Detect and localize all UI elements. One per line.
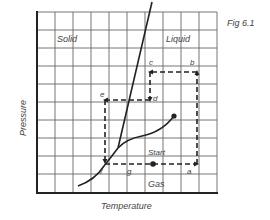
start-point: [150, 161, 156, 167]
point-label-c: c: [149, 58, 153, 67]
point-label-start: Start: [148, 148, 166, 157]
point-label-a: a: [187, 167, 192, 176]
point-label-e: e: [100, 90, 105, 99]
point-label-d: d: [153, 94, 158, 103]
point-label-b: b: [190, 58, 195, 67]
y-axis-label: Pressure: [18, 100, 28, 136]
melting-curve: [118, 2, 152, 148]
region-label-liquid: Liquid: [166, 34, 191, 44]
point-label-g: g: [127, 167, 132, 176]
phase-diagram: Solid Liquid Gas Fig 6.1 Temperature Pre…: [0, 0, 270, 220]
figure-caption: Fig 6.1: [227, 18, 255, 28]
x-axis-label: Temperature: [101, 201, 152, 211]
sublimation-curve: [78, 148, 118, 186]
region-label-gas: Gas: [148, 179, 165, 189]
vaporization-curve: [118, 116, 174, 148]
region-label-solid: Solid: [57, 34, 78, 44]
critical-point: [171, 113, 176, 118]
